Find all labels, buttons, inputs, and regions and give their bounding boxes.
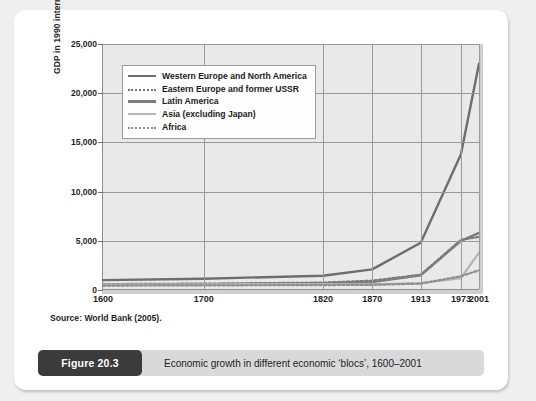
y-tick-label: 20,000 — [71, 88, 97, 98]
gridline-vertical — [461, 44, 462, 289]
y-tick-label: 10,000 — [71, 187, 97, 197]
legend-item: Asia (excluding Japan) — [128, 108, 307, 121]
legend-swatch-africa — [128, 122, 156, 132]
legend-label: Latin America — [162, 96, 219, 106]
legend-swatch-asia-excluding-japan — [128, 109, 156, 119]
y-tick-mark — [98, 142, 103, 143]
y-axis-label: GDP in 1990 international dollars — [52, 0, 66, 74]
legend-item: Africa — [128, 120, 307, 133]
x-tick-label: 1700 — [194, 294, 214, 304]
y-tick-mark — [98, 44, 103, 45]
legend-label: Western Europe and North America — [162, 71, 307, 81]
x-tick-label: 1870 — [362, 294, 382, 304]
x-tick-label: 1913 — [411, 294, 431, 304]
gridline-horizontal — [103, 192, 479, 193]
gridline-horizontal — [103, 44, 479, 45]
gridline-vertical — [323, 44, 324, 289]
legend-swatch-eastern-europe-and-former-ussr — [128, 84, 156, 94]
legend-swatch-latin-america — [128, 96, 156, 106]
gridline-horizontal — [103, 241, 479, 242]
figure-card: GDP in 1990 international dollars 05,000… — [14, 10, 508, 390]
source-note: Source: World Bank (2005). — [50, 313, 162, 323]
y-tick-label: 15,000 — [71, 137, 97, 147]
gridline-vertical — [421, 44, 422, 289]
y-tick-mark — [98, 241, 103, 242]
y-tick-mark — [98, 192, 103, 193]
gridline-vertical — [479, 44, 480, 289]
legend-item: Latin America — [128, 95, 307, 108]
y-tick-mark — [98, 93, 103, 94]
y-tick-label: 5,000 — [76, 236, 97, 246]
page-root: GDP in 1990 international dollars 05,000… — [0, 0, 536, 401]
legend-label: Africa — [162, 122, 186, 132]
legend-item: Eastern Europe and former USSR — [128, 83, 307, 96]
x-tick-label: 1600 — [93, 294, 113, 304]
legend-swatch-western-europe-and-north-america — [128, 71, 156, 81]
gridline-vertical — [372, 44, 373, 289]
x-tick-label: 1973 — [451, 294, 471, 304]
x-tick-label: 2001 — [469, 294, 489, 304]
x-tick-label: 1820 — [313, 294, 333, 304]
legend-label: Asia (excluding Japan) — [162, 109, 256, 119]
legend-label: Eastern Europe and former USSR — [162, 84, 299, 94]
y-tick-label: 25,000 — [71, 39, 97, 49]
y-tick-mark — [98, 290, 103, 291]
figure-number-badge: Figure 20.3 — [38, 350, 142, 376]
chart-legend: Western Europe and North America Eastern… — [122, 65, 316, 139]
legend-item: Western Europe and North America — [128, 70, 307, 83]
chart-figure: GDP in 1990 international dollars 05,000… — [24, 18, 498, 308]
figure-caption-text: Economic growth in different economic ‘b… — [164, 358, 422, 369]
gridline-horizontal — [103, 142, 479, 143]
figure-caption: Figure 20.3 Economic growth in different… — [38, 350, 484, 376]
